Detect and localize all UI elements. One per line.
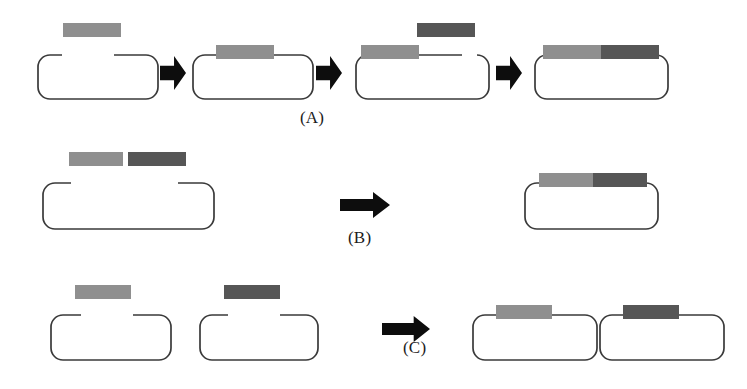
backbone-outline [200, 315, 318, 360]
diagram-canvas: (A)(B)(C) [0, 0, 747, 389]
first-linear-backbone-with-light-insert [48, 312, 174, 363]
first-completed-construct [470, 312, 600, 363]
label-a: (A) [300, 108, 324, 128]
backbone-outline [51, 315, 171, 360]
second-linear-backbone-with-dark-insert [197, 312, 321, 363]
insert-fragment-light [496, 305, 552, 319]
label-b: (B) [348, 228, 371, 248]
insert-fragment-dark [623, 305, 679, 319]
insert-fragment-dark [224, 285, 280, 299]
insert-fragment-light [75, 285, 131, 299]
diagram-row-c [0, 0, 747, 389]
second-completed-construct [597, 312, 727, 363]
backbone-outline [473, 315, 597, 360]
label-c: (C) [403, 338, 426, 358]
backbone-outline [600, 315, 724, 360]
